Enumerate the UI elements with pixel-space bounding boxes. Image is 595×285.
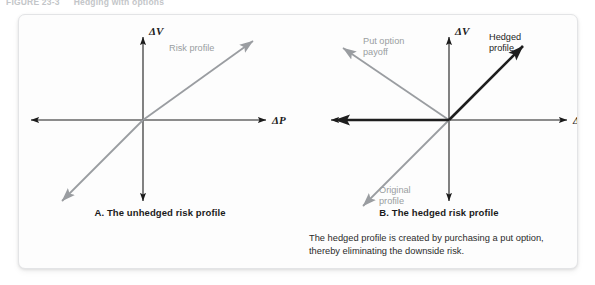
- chart-b-hedged-profile-slope: [449, 46, 523, 120]
- chart-a-x-axis-label: ΔP: [271, 114, 286, 126]
- chart-b-svg: ΔV ΔP Put option payoff Hedged profile O…: [301, 15, 577, 220]
- figure-panel: ΔV ΔP Risk profile: [18, 14, 578, 269]
- chart-a-y-axis-label: ΔV: [148, 25, 165, 37]
- chart-b-original-profile-label-line1: Original: [379, 185, 411, 195]
- figure-title: Hedging with options: [74, 0, 164, 7]
- figure-panel-inner: ΔV ΔP Risk profile: [19, 15, 577, 268]
- figure-header: FIGURE 23-3Hedging with options: [6, 0, 164, 7]
- chart-b-put-option-payoff: [343, 48, 449, 120]
- chart-a-risk-profile-lower: [62, 120, 143, 201]
- chart-a-unhedged-risk-profile: ΔV ΔP Risk profile: [19, 15, 301, 220]
- chart-b-y-axis-label: ΔV: [454, 25, 471, 37]
- chart-a-risk-profile-label: Risk profile: [169, 43, 214, 53]
- figure-number: FIGURE 23-3: [6, 0, 60, 7]
- chart-b-put-option-payoff-label-line1: Put option: [363, 36, 404, 46]
- chart-b-x-axis-label: ΔP: [572, 114, 577, 126]
- figure-note: The hedged profile is created by purchas…: [309, 232, 571, 258]
- chart-a-svg: ΔV ΔP Risk profile: [19, 15, 301, 220]
- figure-note-line1: The hedged profile is created by purchas…: [309, 233, 513, 243]
- chart-a-caption: A. The unhedged risk profile: [19, 207, 301, 218]
- chart-b-caption: B. The hedged risk profile: [301, 207, 577, 218]
- chart-b-hedged-profile-label-line2: profile: [489, 43, 514, 53]
- chart-b-put-option-payoff-label-line2: payoff: [363, 47, 388, 57]
- chart-b-hedged-risk-profile: ΔV ΔP Put option payoff Hedged profile O…: [301, 15, 577, 220]
- chart-b-hedged-profile-label-line1: Hedged: [489, 32, 521, 42]
- chart-b-original-profile-label-line2: profile: [379, 196, 404, 206]
